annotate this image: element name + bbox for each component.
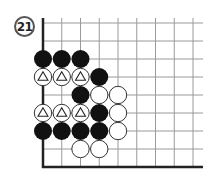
black-stone bbox=[72, 50, 90, 68]
white-stone bbox=[109, 122, 126, 139]
white-stone bbox=[53, 68, 70, 85]
black-stone bbox=[72, 122, 90, 140]
black-stone bbox=[53, 122, 71, 140]
white-stone bbox=[34, 104, 51, 121]
white-stone bbox=[91, 86, 108, 103]
black-stone bbox=[90, 104, 108, 122]
stones-layer bbox=[34, 50, 127, 158]
white-stone bbox=[72, 68, 89, 85]
white-stone bbox=[91, 140, 108, 157]
black-stone bbox=[90, 68, 108, 86]
white-stone bbox=[109, 104, 126, 121]
black-stone bbox=[34, 50, 52, 68]
black-stone bbox=[34, 122, 52, 140]
white-stone bbox=[34, 68, 51, 85]
black-stone bbox=[72, 86, 90, 104]
black-stone bbox=[53, 50, 71, 68]
white-stone bbox=[109, 86, 126, 103]
white-stone bbox=[72, 104, 89, 121]
go-board bbox=[0, 0, 210, 178]
white-stone bbox=[72, 140, 89, 157]
black-stone bbox=[90, 122, 108, 140]
white-stone bbox=[53, 104, 70, 121]
